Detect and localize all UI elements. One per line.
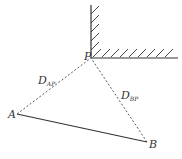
edge-ab [17,114,147,142]
point-label-a: A [7,108,16,121]
edge-label-bp: DBP [120,89,139,102]
wall-hatching [91,6,173,57]
diagram-canvas: P A B DAP DBP [0,0,182,159]
point-label-p: P [83,50,92,63]
edge-bp [91,58,147,142]
edge-label-ap: DAP [37,74,56,87]
wall-corner [91,5,178,58]
point-label-b: B [148,138,157,151]
